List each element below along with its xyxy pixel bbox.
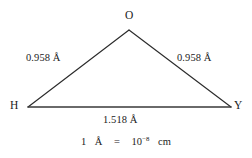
conversion-result-unit: cm [158,136,171,147]
bond-length-base: 1.518 Å [103,115,138,126]
conversion-unit-angstrom: Å [95,136,103,147]
bond-length-left: 0.958 Å [26,53,61,64]
bond-line-left [28,30,129,107]
triangle-diagram [0,0,252,158]
conversion-result-base: 10 [131,136,142,147]
bond-line-right [129,30,231,107]
vertex-label-right: Y [234,100,243,112]
conversion-equals-sign: = [114,136,120,147]
conversion-result-exponent: −8 [142,135,149,142]
vertex-label-left: H [10,100,19,112]
vertex-label-oxygen: O [125,10,134,22]
bond-length-right: 0.958 Å [177,53,212,64]
figure-canvas: O H Y 0.958 Å 0.958 Å 1.518 Å 1 Å = 10−8… [0,0,252,158]
conversion-value: 1 [81,136,86,147]
unit-conversion-note: 1 Å = 10−8 cm [0,137,252,148]
